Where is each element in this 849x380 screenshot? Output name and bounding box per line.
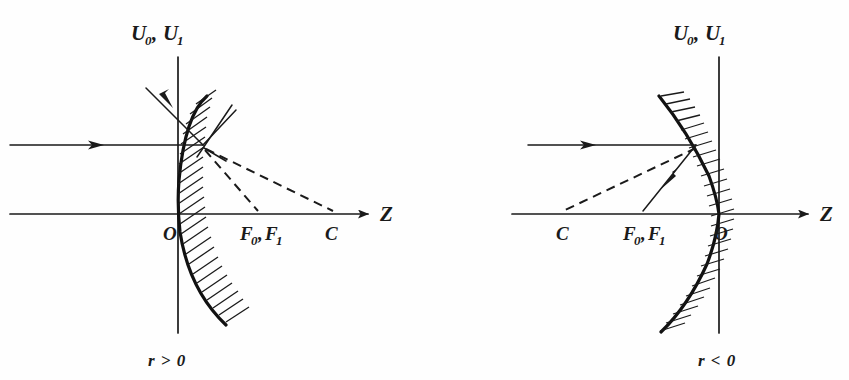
right-focus-comma: , <box>640 223 646 244</box>
right-center-label: C <box>556 223 569 244</box>
right-mirror-hatching <box>660 92 734 331</box>
figure-canvas: U 0 , U 1 Z O F 0 , F 1 C r > 0 <box>0 0 849 380</box>
right-dashed-to-center <box>563 148 696 211</box>
left-label-comma: , <box>151 21 157 45</box>
left-origin-label: O <box>163 223 177 244</box>
right-vertical-axis-label: U 0 , U 1 <box>673 21 726 48</box>
left-focus-label: F 0 , F 1 <box>239 223 283 248</box>
left-u0-subscript: 0 <box>145 33 152 48</box>
right-reflected-ray-arrowhead <box>660 168 678 190</box>
optics-figure: U 0 , U 1 Z O F 0 , F 1 C r > 0 <box>0 0 849 380</box>
left-condition-label: r > 0 <box>148 351 186 370</box>
left-f1-subscript: 1 <box>276 233 283 248</box>
left-u1-subscript: 1 <box>177 33 184 48</box>
right-f0-subscript: 0 <box>634 233 641 248</box>
left-dashed-to-center <box>206 149 333 211</box>
right-u1-subscript: 1 <box>719 33 726 48</box>
right-f1-subscript: 1 <box>659 233 666 248</box>
left-tangent-marks <box>197 105 236 161</box>
left-center-label: C <box>325 223 338 244</box>
left-dashed-to-focus <box>205 150 258 211</box>
left-focus-comma: , <box>257 223 263 244</box>
right-panel: U 0 , U 1 Z O F 0 , F 1 C r < 0 <box>512 21 833 370</box>
right-label-comma: , <box>693 21 699 45</box>
left-panel: U 0 , U 1 Z O F 0 , F 1 C r > 0 <box>10 21 393 370</box>
right-focus-label: F 0 , F 1 <box>622 223 666 248</box>
left-vertical-axis-label: U 0 , U 1 <box>131 21 184 48</box>
right-condition-label: r < 0 <box>698 351 736 370</box>
left-z-axis-label: Z <box>379 202 393 226</box>
left-incident-ray <box>10 141 203 150</box>
left-f0-subscript: 0 <box>251 233 258 248</box>
right-incident-ray <box>528 141 696 150</box>
right-z-axis-label: Z <box>819 202 833 226</box>
right-reflected-ray-line <box>643 145 696 211</box>
right-reflected-ray <box>643 145 696 211</box>
right-u0-subscript: 0 <box>687 33 694 48</box>
right-origin-label: O <box>714 223 728 244</box>
left-reflected-ray-arrowhead <box>159 89 173 108</box>
